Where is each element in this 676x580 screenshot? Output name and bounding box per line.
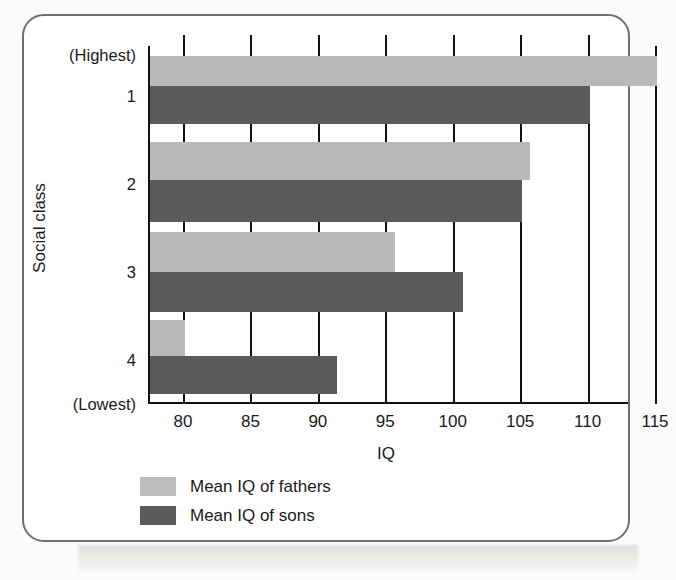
bar-sons-class-1	[150, 86, 590, 124]
y-axis-label-class-2: 2	[127, 176, 136, 193]
scan-smudge	[78, 545, 638, 571]
x-tick-label-115: 115	[641, 412, 668, 432]
legend-label-fathers: Mean IQ of fathers	[190, 477, 331, 497]
y-axis-label-lowest: (Lowest)	[73, 396, 136, 413]
top-tick-90	[318, 35, 320, 46]
bar-sons-class-3	[150, 272, 463, 312]
legend-item-sons: Mean IQ of sons	[140, 501, 331, 530]
y-axis-label-highest: (Highest)	[69, 47, 136, 64]
bar-fathers-class-1	[150, 56, 657, 86]
bar-fathers-class-4	[150, 320, 185, 356]
y-axis-label-class-4: 4	[127, 352, 136, 369]
top-tick-80	[183, 35, 185, 46]
top-tick-95	[385, 35, 387, 46]
x-tick-label-105: 105	[506, 412, 534, 432]
x-axis-line	[148, 402, 628, 404]
x-tick-label-110: 110	[574, 412, 601, 432]
bar-fathers-class-2	[150, 142, 530, 180]
bar-sons-class-4	[150, 356, 337, 394]
legend-swatch-sons-icon	[140, 506, 176, 525]
legend-label-sons: Mean IQ of sons	[190, 506, 315, 526]
y-axis-label-class-1: 1	[127, 88, 136, 105]
top-tick-110	[588, 35, 590, 46]
x-tick-label-90: 90	[308, 412, 327, 432]
x-tick-label-85: 85	[241, 412, 260, 432]
top-tick-100	[453, 35, 455, 46]
plot-area	[148, 46, 626, 404]
x-tick-label-80: 80	[174, 412, 193, 432]
y-axis-label-class-3: 3	[127, 264, 136, 281]
top-tick-105	[520, 35, 522, 46]
bar-fathers-class-3	[150, 232, 395, 272]
legend-swatch-fathers-icon	[140, 477, 176, 496]
top-tick-85	[250, 35, 252, 46]
legend: Mean IQ of fathers Mean IQ of sons	[140, 472, 331, 530]
x-axis-title: IQ	[377, 444, 395, 464]
gridline-115	[655, 46, 657, 404]
legend-item-fathers: Mean IQ of fathers	[140, 472, 331, 501]
bar-sons-class-2	[150, 180, 522, 222]
x-tick-label-95: 95	[376, 412, 395, 432]
y-axis-labels: (Highest) 1 2 3 4 (Lowest)	[0, 0, 142, 580]
x-tick-label-100: 100	[439, 412, 467, 432]
